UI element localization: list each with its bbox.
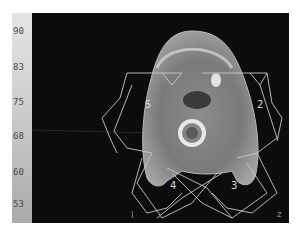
ct-image-panel: 5 2 4 3 I z	[32, 13, 289, 223]
colorbar-tick: 68	[13, 131, 24, 141]
ct-slice-with-beams	[32, 13, 289, 223]
beam-label: 2	[257, 99, 263, 110]
colorbar-tick: 60	[13, 167, 24, 177]
dose-colorbar: 90 83 75 68 60 53	[12, 13, 32, 223]
dose-visualization: 90 83 75 68 60 53	[12, 13, 289, 223]
colorbar-tick: 83	[13, 62, 24, 72]
colorbar-tick: 53	[13, 199, 24, 209]
colorbar-tick: 90	[13, 26, 24, 36]
orientation-mark-left: I	[131, 210, 134, 220]
colorbar-tick: 75	[13, 97, 24, 107]
beam-label: 5	[145, 99, 151, 110]
orientation-mark-right: z	[277, 209, 282, 219]
beam-label: 3	[231, 180, 237, 191]
beam-label: 4	[170, 180, 176, 191]
